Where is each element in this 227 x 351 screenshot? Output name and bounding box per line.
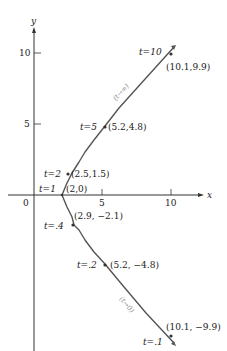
point-t2 (66, 172, 69, 175)
x-tick-label-10: 10 (165, 198, 177, 208)
coord-t02: (5.2, −4.8) (110, 260, 159, 270)
point-t1 (61, 194, 63, 196)
point-t04 (71, 223, 74, 226)
label-t10: t=10 (139, 47, 162, 57)
x-tick-label-5: 5 (99, 198, 105, 208)
y-axis-label: y (30, 16, 37, 26)
point-t01 (169, 334, 172, 337)
coord-t2: (2.5,1.5) (71, 169, 110, 179)
label-t5: t=5 (80, 122, 97, 132)
y-axis-arrow-icon (32, 27, 36, 33)
origin-label: 0 (23, 198, 29, 208)
coord-t01: (10.1, −9.9) (166, 322, 221, 332)
label-t2: t=2 (44, 169, 61, 179)
coord-t10: (10.1,9.9) (166, 62, 210, 72)
y-tick-label-5: 5 (24, 119, 30, 129)
annotation-t-to-infinity: (t→∞) (112, 82, 131, 102)
curve-arrow-bottom-icon (171, 341, 176, 346)
y-tick-label-10: 10 (19, 48, 31, 58)
point-t5 (103, 125, 106, 128)
parametric-plot: y x 0 5 10 5 10 t=10 (10.1,9.9) t=5 (5.2… (0, 0, 227, 351)
x-axis-label: x (207, 190, 212, 200)
point-t02 (103, 263, 106, 266)
coord-t04: (2.9, −2.1) (74, 211, 123, 221)
label-t01: t=.1 (143, 337, 163, 347)
label-t04: t=.4 (44, 221, 64, 231)
x-axis-arrow-icon (198, 193, 204, 197)
coord-t5: (5.2,4.8) (108, 122, 147, 132)
label-t02: t=.2 (77, 260, 97, 270)
label-t1: t=1 (39, 184, 56, 194)
axes (8, 27, 204, 351)
coord-t1: (2,0) (66, 184, 87, 194)
point-t10 (169, 52, 172, 55)
